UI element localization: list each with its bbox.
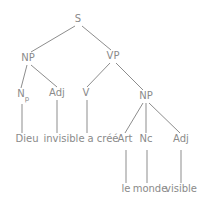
tree-node-nc: Nc <box>140 133 153 144</box>
node-label-np2: NP <box>139 90 153 101</box>
tree-node-np2: NP <box>139 90 153 101</box>
tree-node-np: Np <box>17 88 30 103</box>
tree-node-np1: NP <box>21 52 35 63</box>
node-subscript-np: p <box>25 95 30 103</box>
tree-node-vp: VP <box>107 50 120 61</box>
tree-edge-np1-to-adj1 <box>31 65 57 87</box>
node-label-adj2: Adj <box>173 133 189 144</box>
word-label-w4: le <box>122 183 131 194</box>
node-label-nc: Nc <box>140 133 153 144</box>
tree-node-art: Art <box>118 133 133 144</box>
tree-edge-np1-to-np <box>21 65 27 88</box>
tree-node-w1: Dieu <box>16 133 39 144</box>
tree-node-v: V <box>83 87 90 98</box>
tree-edge-s-to-vp <box>82 26 111 50</box>
tree-edge-np2-to-art <box>125 103 143 133</box>
word-label-w3: a créé <box>87 133 118 144</box>
syntax-tree-figure: SNPVPNpAdjVNPArtNcAdjDieuinvisiblea créé… <box>0 0 205 202</box>
tree-node-adj1: Adj <box>49 87 65 98</box>
word-label-w5: monde <box>133 183 168 194</box>
tree-edge-vp-to-np2 <box>116 63 143 90</box>
tree-node-w4: le <box>122 183 131 194</box>
node-label-s: S <box>75 13 81 24</box>
tree-node-w3: a créé <box>87 133 118 144</box>
tree-node-w2: invisible <box>43 133 84 144</box>
node-label-vp: VP <box>107 50 120 61</box>
node-label-art: Art <box>118 133 133 144</box>
word-label-w6: visible <box>165 183 197 194</box>
tree-node-w5: monde <box>133 183 168 194</box>
node-label-np: N <box>17 88 24 99</box>
node-label-adj1: Adj <box>49 87 65 98</box>
word-label-w2: invisible <box>43 133 84 144</box>
syntax-tree-canvas: SNPVPNpAdjVNPArtNcAdjDieuinvisiblea créé… <box>0 0 205 202</box>
tree-node-adj2: Adj <box>173 133 189 144</box>
tree-edge-s-to-np1 <box>31 26 75 52</box>
node-label-v: V <box>83 87 90 98</box>
word-label-w1: Dieu <box>16 133 39 144</box>
tree-node-layer: SNPVPNpAdjVNPArtNcAdjDieuinvisiblea créé… <box>16 13 197 194</box>
tree-node-w6: visible <box>165 183 197 194</box>
tree-edge-vp-to-v <box>87 63 110 87</box>
tree-edge-layer <box>21 26 181 183</box>
node-label-np1: NP <box>21 52 35 63</box>
tree-node-s: S <box>75 13 81 24</box>
tree-edge-np2-to-adj2 <box>149 103 180 133</box>
